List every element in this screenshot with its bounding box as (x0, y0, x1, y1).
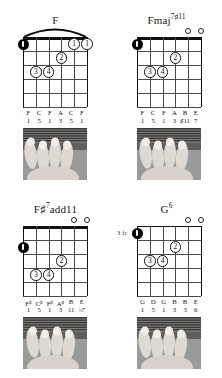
interval-row: 151351 (23, 117, 87, 125)
interval-degree: 1 (23, 117, 34, 125)
interval-degree: 1 (137, 117, 148, 125)
note-letter: E (194, 109, 198, 116)
note-name: B (169, 298, 180, 306)
note-letter: C (69, 109, 73, 116)
note-letter: F (162, 109, 166, 116)
fret-position-label: 3 fr (117, 229, 127, 236)
note-names-row: GDGBBE (137, 298, 201, 306)
thumb-marker (18, 39, 29, 50)
chord-name: G6 (111, 203, 222, 215)
note-letter: A (58, 109, 63, 116)
chord-name-root: Fmaj (147, 14, 170, 26)
finger-marker: 2 (170, 241, 182, 253)
note-letter: C (151, 109, 155, 116)
finger-marker: 3 (144, 255, 156, 267)
interval-degree: 1 (44, 306, 55, 314)
note-letter: G (140, 298, 145, 305)
note-name: F (137, 109, 148, 117)
note-letter: G (161, 298, 166, 305)
interval-degree: 3 (180, 306, 191, 314)
interval-row: 1513♯117 (137, 117, 201, 125)
interval-degree: 3 (169, 117, 180, 125)
fret-line (137, 282, 201, 283)
note-letter: B (183, 109, 187, 116)
chord-name-superscript: 6 (169, 201, 173, 210)
interval-degree: 1 (44, 117, 55, 125)
thumb-marker-glyph (22, 244, 24, 250)
nut-line (23, 226, 87, 229)
hand-position-photo (137, 317, 201, 369)
finger-marker: 4 (43, 66, 55, 78)
open-string-marker (185, 28, 191, 34)
note-name: E (190, 298, 201, 306)
note-name: B (180, 298, 191, 306)
fret-line (23, 240, 87, 241)
string-line (74, 226, 75, 296)
fretboard-grid: 2343 fr (137, 226, 201, 296)
chord-diagram-g6: G62343 frGDGBBE151336 (111, 189, 222, 378)
note-letter: F (141, 109, 145, 116)
string-line (61, 37, 62, 107)
chord-name-suffix: add11 (50, 203, 77, 215)
note-name: E (190, 109, 201, 117)
fret-line-top (137, 226, 201, 227)
interval-degree: 5 (148, 306, 159, 314)
fret-line (23, 79, 87, 80)
note-name: D (148, 298, 159, 306)
note-name: A (169, 109, 180, 117)
note-letter: E (194, 298, 198, 305)
hand-position-photo (137, 128, 201, 180)
fret-line (23, 93, 87, 94)
interval-degree: 5 (66, 117, 77, 125)
thumb-marker (132, 228, 143, 239)
note-name: C (66, 109, 77, 117)
finger-marker: 1 (81, 38, 93, 50)
string-line (188, 226, 189, 296)
open-string-marker (198, 28, 204, 34)
finger-marker: 1 (68, 38, 80, 50)
note-letter: A (172, 109, 177, 116)
finger-marker: 2 (56, 52, 68, 64)
chord-name: Fmaj7♯11 (111, 14, 222, 26)
string-line (49, 226, 50, 296)
note-letter: B (172, 298, 176, 305)
note-name: G (137, 298, 148, 306)
string-line (175, 37, 176, 107)
note-letter: E (80, 298, 84, 305)
fret-line (137, 51, 201, 52)
note-letter: B (69, 298, 73, 305)
note-name: F (76, 109, 87, 117)
string-line (201, 226, 202, 296)
interval-degree: 3 (55, 117, 66, 125)
interval-degree: 5 (34, 306, 45, 314)
thumb-marker-glyph (136, 230, 138, 236)
interval-degree: ♯11 (180, 117, 191, 125)
thumb-marker-glyph (136, 41, 138, 47)
chord-name-root: G (161, 203, 169, 215)
interval-degree: ♭7 (76, 306, 87, 314)
open-string-marker (198, 217, 204, 223)
chord-name: F♯7add11 (0, 203, 111, 215)
note-name: F (158, 109, 169, 117)
thumb-marker-glyph (22, 41, 24, 47)
string-line (175, 226, 176, 296)
fret-line (23, 282, 87, 283)
fretboard-grid: 234 (23, 226, 87, 296)
chord-name-root: F♯ (34, 203, 46, 215)
chord-name-superscript: 7♯11 (171, 12, 186, 21)
finger-marker: 3 (30, 269, 42, 281)
string-line (201, 37, 202, 107)
interval-degree: 1 (23, 306, 34, 314)
note-accidental: ♯ (40, 299, 43, 305)
open-string-marker (185, 217, 191, 223)
finger-marker: 4 (43, 269, 55, 281)
finger-marker: 2 (56, 255, 68, 267)
finger-marker: 3 (144, 66, 156, 78)
note-letter: B (183, 298, 187, 305)
fret-line (137, 240, 201, 241)
note-accidental: ♯ (50, 299, 53, 305)
fret-line (137, 93, 201, 94)
interval-degree: 3 (169, 306, 180, 314)
note-letter: F (80, 109, 84, 116)
note-name: F (23, 109, 34, 117)
